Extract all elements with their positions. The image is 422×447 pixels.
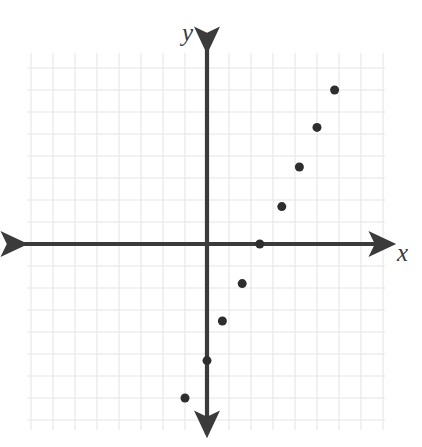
x-axis-label: x <box>397 239 408 267</box>
data-point <box>255 240 264 249</box>
y-axis-label: y <box>182 19 193 47</box>
data-point <box>203 356 212 365</box>
data-point <box>218 317 227 326</box>
coordinate-plane-figure: y x <box>0 0 422 447</box>
scatter-plot-canvas <box>0 0 422 447</box>
data-point <box>238 279 247 288</box>
data-point <box>277 202 286 211</box>
data-point <box>330 86 339 95</box>
data-point <box>181 394 190 403</box>
data-point <box>295 163 304 172</box>
data-point <box>313 123 322 132</box>
